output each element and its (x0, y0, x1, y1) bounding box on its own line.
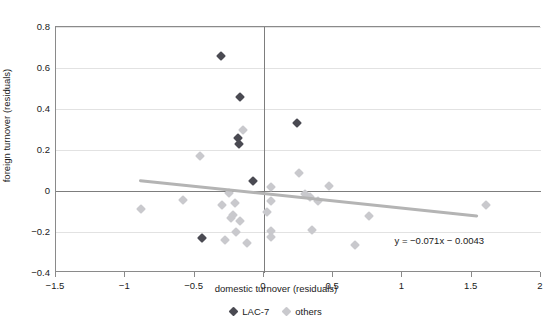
y-tick-label: 0.4 (14, 103, 50, 114)
x-tick-mark (194, 272, 195, 277)
diamond-marker-icon (282, 307, 292, 317)
gridline-horizontal (56, 109, 541, 110)
data-point-lac7 (235, 92, 245, 102)
y-tick-label: 0.8 (14, 21, 50, 32)
legend-label-others: others (295, 306, 321, 317)
y-tick-label: −0.2 (14, 226, 50, 237)
x-tick-mark (401, 272, 402, 277)
data-point-others (238, 125, 248, 135)
data-point-others (195, 151, 205, 161)
data-point-others (307, 225, 317, 235)
x-tick-mark (332, 272, 333, 277)
x-axis-title: domestic turnover (residuals) (0, 283, 552, 294)
data-point-others (324, 181, 334, 191)
trendline (139, 179, 479, 218)
data-point-others (242, 238, 252, 248)
data-point-others (217, 200, 227, 210)
diamond-marker-icon (229, 307, 239, 317)
legend-label-lac7: LAC-7 (242, 306, 269, 317)
y-tick-label: 0.2 (14, 144, 50, 155)
zero-line-vertical (264, 27, 265, 273)
data-point-lac7 (248, 176, 258, 186)
legend-item-others[interactable]: others (283, 306, 321, 317)
gridline-horizontal (56, 232, 541, 233)
data-point-others (481, 200, 491, 210)
y-tick-label: 0.6 (14, 62, 50, 73)
legend-item-lac7[interactable]: LAC-7 (230, 306, 269, 317)
zero-line-horizontal (56, 191, 541, 192)
y-tick-label: 0 (14, 185, 50, 196)
data-point-lac7 (216, 51, 226, 61)
y-tick-label: −0.4 (14, 267, 50, 278)
gridline-horizontal (56, 27, 541, 28)
y-axis-title: foreign turnover (residuals) (1, 26, 12, 226)
x-tick-mark (124, 272, 125, 277)
data-point-others (364, 211, 374, 221)
data-point-others (220, 235, 230, 245)
gridline-horizontal (56, 150, 541, 151)
data-point-others (231, 227, 241, 237)
x-tick-mark (55, 272, 56, 277)
x-tick-mark (263, 272, 264, 277)
data-point-others (136, 204, 146, 214)
data-point-others (266, 232, 276, 242)
data-point-others (235, 216, 245, 226)
data-point-others (294, 168, 304, 178)
data-point-others (230, 198, 240, 208)
data-point-others (179, 195, 189, 205)
x-tick-mark (471, 272, 472, 277)
chart-legend: LAC-7 others (0, 306, 552, 317)
regression-equation-annotation: y = −0.071x − 0.0043 (395, 235, 485, 246)
data-point-lac7 (197, 233, 207, 243)
data-point-lac7 (292, 118, 302, 128)
x-tick-mark (540, 272, 541, 277)
data-point-others (266, 196, 276, 206)
gridline-horizontal (56, 68, 541, 69)
data-point-others (350, 240, 360, 250)
scatter-chart: 0.80.60.40.20−0.2−0.4 −1.5−1−0.500.511.5… (0, 0, 552, 329)
